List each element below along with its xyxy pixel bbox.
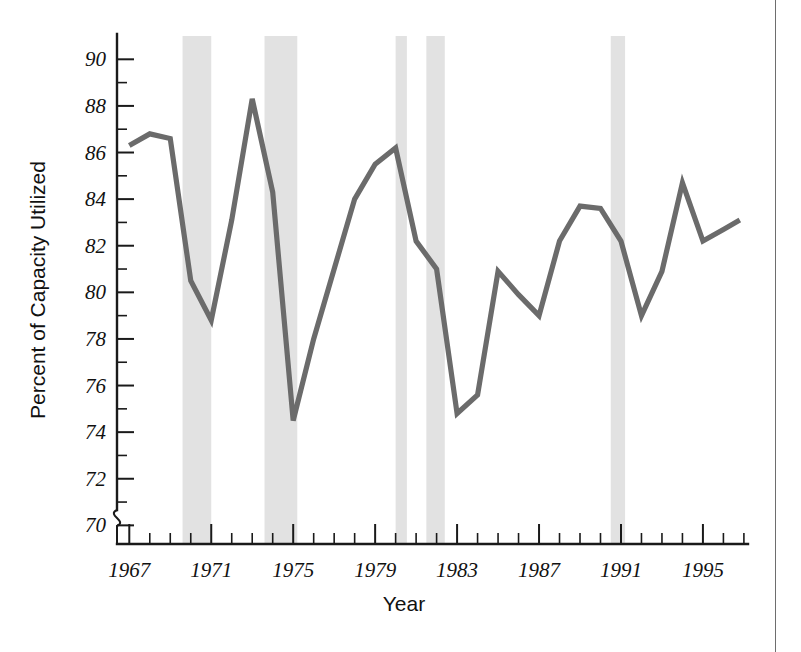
chart-page: 7072747678808284868890 19671971197519791… <box>0 0 801 652</box>
x-tick-label: 1975 <box>272 558 314 582</box>
page-right-border <box>775 0 776 652</box>
x-axis-tick-labels: 19671971197519791983198719911995 <box>108 558 724 582</box>
x-tick-label: 1987 <box>518 558 562 582</box>
y-axis-title: Percent of Capacity Utilized <box>26 161 49 419</box>
y-axis-tick-labels: 7072747678808284868890 <box>85 47 107 537</box>
y-tick-label: 74 <box>85 420 107 444</box>
x-tick-label: 1979 <box>354 558 397 582</box>
axis-break-icon <box>114 510 120 544</box>
y-tick-label: 84 <box>85 187 107 211</box>
x-tick-label: 1971 <box>190 558 232 582</box>
y-tick-label: 80 <box>85 280 107 304</box>
x-tick-label: 1991 <box>600 558 642 582</box>
x-tick-label: 1995 <box>682 558 724 582</box>
recession-band <box>396 36 407 544</box>
y-axis-ticks <box>117 59 134 525</box>
y-tick-label: 78 <box>85 327 107 351</box>
y-tick-label: 90 <box>85 47 107 71</box>
x-tick-label: 1983 <box>436 558 478 582</box>
y-tick-label: 76 <box>85 374 107 398</box>
y-tick-label: 86 <box>85 141 107 165</box>
y-tick-label: 72 <box>85 467 107 491</box>
recession-band <box>611 36 625 544</box>
x-axis-title: Year <box>383 592 425 615</box>
y-tick-label: 88 <box>85 94 107 118</box>
capacity-utilization-line-chart: 7072747678808284868890 19671971197519791… <box>0 0 801 652</box>
y-tick-label: 70 <box>85 513 107 537</box>
y-tick-label: 82 <box>85 234 107 258</box>
x-tick-label: 1967 <box>108 558 152 582</box>
